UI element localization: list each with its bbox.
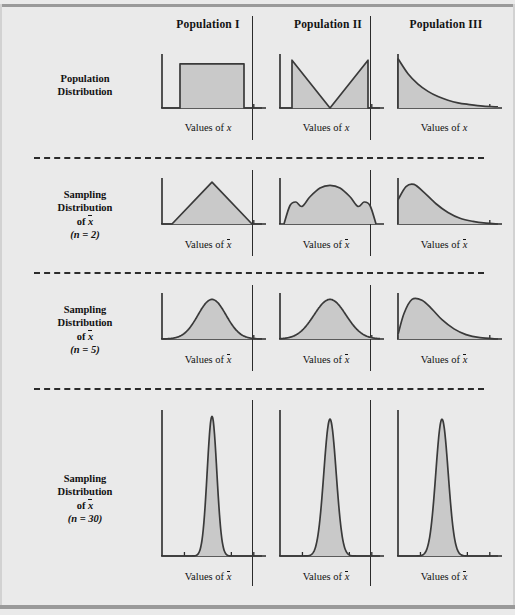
x-bar-symbol: x — [463, 238, 468, 250]
bottom-rule — [0, 605, 515, 609]
x-bar-symbol: x — [88, 329, 93, 343]
x-bar-symbol: x — [463, 570, 468, 582]
distribution-fill — [284, 185, 376, 224]
distribution-fill — [398, 184, 498, 224]
distribution-fill — [162, 64, 262, 108]
axis-caption: Values of x — [266, 238, 386, 250]
column-header-population-1: Population I — [148, 18, 268, 30]
x-bar-symbol: x — [345, 353, 350, 365]
distribution-plot — [266, 176, 386, 236]
distribution-plot — [266, 52, 386, 120]
x-bar-symbol: x — [227, 238, 232, 250]
row-separator — [34, 388, 484, 390]
axis-caption: Values of x — [384, 353, 504, 365]
row-separator — [34, 157, 484, 159]
sampling-distribution-figure: Population I Population II Population II… — [0, 0, 515, 615]
row-label-line: Distribution — [26, 201, 144, 214]
axis-caption: Values of x — [266, 353, 386, 365]
axis-caption: Values of x — [148, 122, 268, 133]
distribution-fill — [162, 416, 262, 556]
distribution-fill — [398, 298, 498, 339]
row-label-line: Sampling — [26, 472, 144, 485]
row-label-sample-size: (n = 5) — [26, 343, 144, 356]
distribution-fill — [162, 299, 262, 339]
row-label-line: Population — [26, 72, 144, 85]
distribution-plot — [384, 408, 504, 568]
x-bar-symbol: x — [345, 570, 350, 582]
row-label-sample-size: (n = 2) — [26, 228, 144, 241]
row-label-population-distribution: Population Distribution — [26, 72, 144, 98]
distribution-plot — [148, 52, 268, 120]
row-label-sampling-n2: Sampling Distribution of x (n = 2) — [26, 188, 144, 241]
axis-caption: Values of x — [148, 570, 268, 582]
row-label-line: Distribution — [26, 85, 144, 98]
x-bar-symbol: x — [463, 353, 468, 365]
row-label-sampling-n30: Sampling Distribution of x (n = 30) — [26, 472, 144, 525]
x-bar-symbol: x — [227, 570, 232, 582]
axis-caption: Values of x — [148, 353, 268, 365]
distribution-plot — [266, 291, 386, 351]
x-bar-symbol: x — [88, 498, 93, 512]
distribution-fill — [280, 299, 380, 339]
distribution-fill — [280, 419, 380, 556]
x-bar-symbol: x — [227, 353, 232, 365]
axis-caption: Values of x — [266, 570, 386, 582]
row-label-sample-size: (n = 30) — [26, 512, 144, 525]
axis-caption: Values of x — [384, 238, 504, 250]
row-label-line: of x — [26, 498, 144, 512]
x-bar-symbol: x — [88, 214, 93, 228]
row-label-line: Sampling — [26, 188, 144, 201]
row-label-line: Distribution — [26, 316, 144, 329]
x-bar-symbol: x — [345, 238, 350, 250]
distribution-plot — [266, 408, 386, 568]
row-label-sampling-n5: Sampling Distribution of x (n = 5) — [26, 303, 144, 356]
distribution-plot — [384, 52, 504, 120]
row-separator — [34, 272, 484, 274]
axis-caption: Values of x — [266, 122, 386, 133]
distribution-fill — [398, 419, 498, 556]
row-label-line: Sampling — [26, 303, 144, 316]
distribution-plot — [148, 408, 268, 568]
row-label-line: of x — [26, 214, 144, 228]
distribution-plot — [384, 176, 504, 236]
row-label-line: of x — [26, 329, 144, 343]
axis-caption: Values of x — [384, 570, 504, 582]
distribution-fill — [280, 60, 380, 108]
distribution-plot — [384, 291, 504, 351]
axis-caption: Values of x — [148, 238, 268, 250]
row-label-line: Distribution — [26, 485, 144, 498]
distribution-plot — [148, 291, 268, 351]
left-edge — [0, 4, 2, 609]
top-rule — [0, 4, 515, 7]
axis-caption: Values of x — [384, 122, 504, 133]
column-header-population-3: Population III — [386, 18, 506, 30]
distribution-plot — [148, 176, 268, 236]
